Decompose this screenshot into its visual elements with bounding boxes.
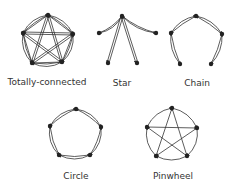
edge-arc xyxy=(147,108,172,127)
node xyxy=(46,13,50,17)
edge-arc xyxy=(90,127,101,155)
node xyxy=(220,32,224,36)
label-pinwheel: Pinwheel xyxy=(153,171,193,181)
edge-chord xyxy=(23,32,73,33)
node xyxy=(169,31,173,35)
edge-chord xyxy=(156,108,172,156)
edge-arc xyxy=(172,108,197,128)
node xyxy=(145,125,149,129)
edge-arc xyxy=(50,109,76,126)
edge xyxy=(121,16,136,63)
edge-arc xyxy=(50,126,59,155)
edge-arc xyxy=(122,16,156,33)
node xyxy=(120,14,124,18)
edge-arc xyxy=(171,16,196,33)
edge-arc xyxy=(171,33,180,64)
node xyxy=(21,31,25,35)
network-diagrams xyxy=(0,0,241,193)
node xyxy=(106,61,110,65)
node xyxy=(74,107,78,111)
edge-arc xyxy=(76,109,101,127)
node xyxy=(99,125,103,129)
node xyxy=(195,126,199,130)
node xyxy=(178,62,182,66)
edge-chord xyxy=(172,108,187,156)
edge-arc xyxy=(59,155,90,157)
node xyxy=(57,153,61,157)
node xyxy=(97,31,101,35)
node xyxy=(30,61,34,65)
edge-arc xyxy=(187,128,197,156)
label-chain: Chain xyxy=(184,78,210,88)
node xyxy=(60,60,64,64)
node xyxy=(170,106,174,110)
edge-arc xyxy=(146,127,156,156)
edge xyxy=(123,16,138,63)
edge-arc xyxy=(211,34,222,64)
edge-arc xyxy=(50,109,76,126)
node xyxy=(154,154,158,158)
edge xyxy=(109,16,123,63)
node xyxy=(135,61,139,65)
edge-arc xyxy=(156,156,187,160)
edge-arc xyxy=(171,16,196,33)
node xyxy=(194,14,198,18)
label-totally-connected: Totally-connected xyxy=(7,77,86,87)
node xyxy=(48,124,52,128)
edge-chord xyxy=(23,34,73,35)
label-circle: Circle xyxy=(63,171,88,181)
edge-arc xyxy=(196,16,222,34)
node xyxy=(88,153,92,157)
edge-chord xyxy=(147,127,197,128)
edge-arc xyxy=(76,109,101,127)
edge-arc xyxy=(196,16,222,34)
node xyxy=(154,31,158,35)
edge-arc xyxy=(122,16,156,33)
node xyxy=(71,32,75,36)
node xyxy=(209,62,213,66)
edge-chord xyxy=(147,127,187,156)
edge xyxy=(107,16,121,63)
node xyxy=(185,154,189,158)
label-star: Star xyxy=(113,78,131,88)
